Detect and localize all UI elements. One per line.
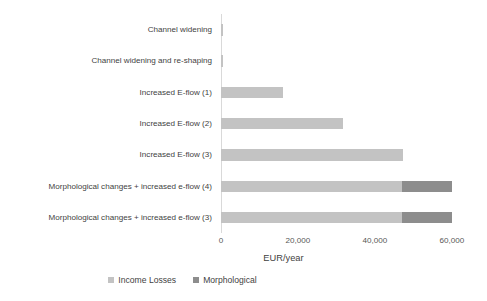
legend-label: Morphological: [203, 275, 257, 285]
category-label: Increased E-flow (3): [140, 139, 221, 170]
chart-row: Increased E-flow (3): [221, 139, 452, 170]
stacked-bar: [221, 55, 223, 67]
stacked-bar: [221, 181, 452, 193]
chart-row: Increased E-flow (2): [221, 108, 452, 139]
x-axis-ticks: 020,00040,00060,000: [221, 236, 452, 248]
legend-item[interactable]: Morphological: [193, 275, 257, 285]
category-label: Morphological changes + increased e-flow…: [48, 202, 221, 233]
stacked-bar: [221, 149, 403, 161]
chart-row: Increased E-flow (1): [221, 77, 452, 108]
category-label: Increased E-flow (2): [140, 108, 221, 139]
legend-swatch-icon: [108, 277, 114, 283]
x-tick-label: 60,000: [440, 236, 465, 245]
chart-legend: Income LossesMorphological: [0, 275, 487, 285]
legend-label: Income Losses: [118, 275, 176, 285]
chart-row: Morphological changes + increased e-flow…: [221, 171, 452, 202]
legend-item[interactable]: Income Losses: [108, 275, 176, 285]
chart-row: Morphological changes + increased e-flow…: [221, 202, 452, 233]
bar-segment-income-losses: [221, 24, 223, 36]
bar-chart: Channel wideningChannel widening and re-…: [0, 0, 487, 301]
bar-segment-income-losses: [221, 55, 223, 67]
stacked-bar: [221, 24, 223, 36]
bar-segment-income-losses: [221, 87, 283, 99]
category-label: Morphological changes + increased e-flow…: [48, 171, 221, 202]
bar-segment-morphological: [402, 212, 452, 224]
category-label: Channel widening: [148, 14, 221, 45]
stacked-bar: [221, 118, 343, 130]
x-tick-label: 20,000: [286, 236, 311, 245]
bar-segment-income-losses: [221, 118, 343, 130]
legend-swatch-icon: [193, 277, 199, 283]
category-label: Increased E-flow (1): [140, 77, 221, 108]
x-axis-title: EUR/year: [0, 253, 487, 263]
bar-segment-morphological: [402, 181, 452, 193]
stacked-bar: [221, 87, 283, 99]
stacked-bar: [221, 212, 452, 224]
bar-segment-income-losses: [221, 181, 402, 193]
x-tick-label: 0: [219, 236, 224, 245]
chart-row: Channel widening: [221, 14, 452, 45]
category-label: Channel widening and re-shaping: [91, 45, 221, 76]
chart-row: Channel widening and re-shaping: [221, 45, 452, 76]
bar-segment-income-losses: [221, 149, 403, 161]
bar-segment-income-losses: [221, 212, 402, 224]
plot-area: Channel wideningChannel widening and re-…: [221, 14, 452, 233]
x-tick-label: 40,000: [363, 236, 388, 245]
